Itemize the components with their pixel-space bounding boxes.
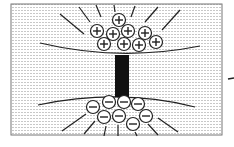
- negative-charge-icon: [127, 118, 140, 131]
- charge-diagram: [0, 0, 234, 147]
- negative-charge-icon: [132, 98, 145, 111]
- negative-charge-icon: [103, 96, 116, 109]
- positive-charge-icon: [139, 27, 152, 40]
- negative-charge-icon: [118, 96, 131, 109]
- negative-charge-icon: [113, 110, 126, 123]
- discharge-channel: [115, 55, 129, 97]
- positive-charge-icon: [91, 25, 104, 38]
- positive-charge-icon: [122, 25, 135, 38]
- positive-charge-icon: [150, 36, 163, 49]
- positive-charge-icon: [113, 14, 126, 27]
- positive-charge-icon: [118, 38, 131, 51]
- positive-charge-icon: [133, 39, 146, 52]
- negative-charge-icon: [87, 101, 100, 114]
- negative-charge-icon: [98, 111, 111, 124]
- positive-charge-icon: [98, 38, 111, 51]
- negative-charge-icon: [140, 110, 153, 123]
- pointer-tick: [228, 78, 234, 79]
